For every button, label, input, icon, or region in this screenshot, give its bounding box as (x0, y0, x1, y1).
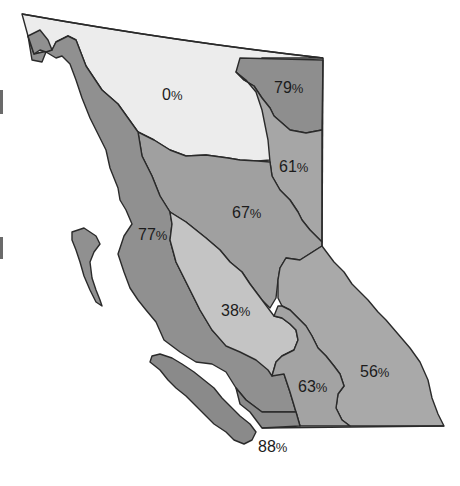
label-northeast: 79% (274, 79, 304, 96)
region-haida-gwaii (72, 228, 102, 306)
label-coast: 77% (138, 226, 168, 243)
label-kootenay: 56% (360, 363, 390, 380)
label-peace: 61% (279, 158, 309, 175)
label-cariboo: 38% (221, 302, 251, 319)
label-north: 0% (162, 86, 183, 103)
label-central-north: 67% (232, 204, 262, 221)
label-island: 88% (258, 438, 288, 455)
label-okanagan: 63% (298, 378, 328, 395)
bc-choropleth-map: 0% 79% 61% 67% 77% 38% 56% 63% 88% (0, 0, 460, 486)
